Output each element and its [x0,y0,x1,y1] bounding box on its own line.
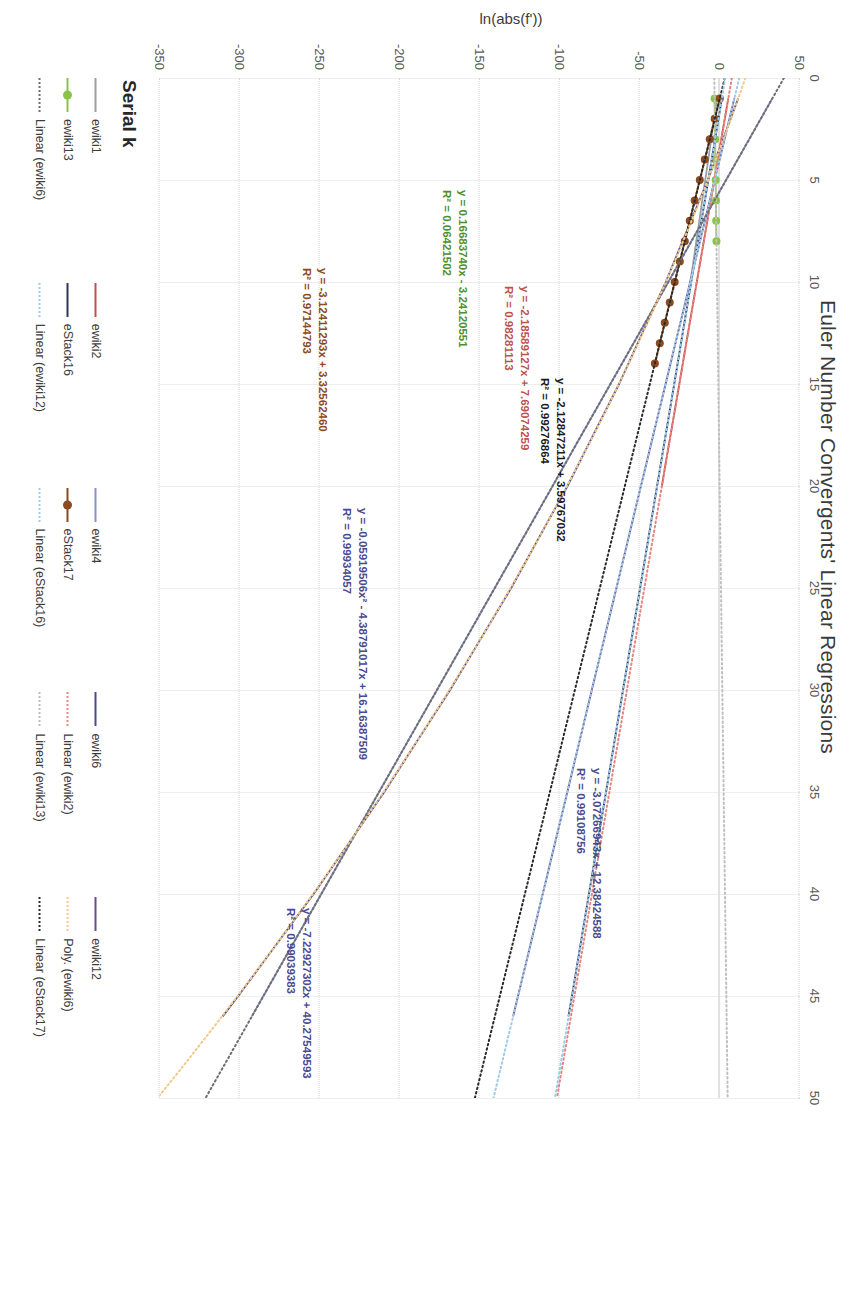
legend-item-linear-estack17-[interactable]: Linear (eStack17) [32,897,46,1098]
annotation-r2: R² = 0.97144793 [298,268,314,432]
legend-item-label: Linear (eStack17) [32,938,46,1037]
annotation-eStack16-fit: y = -2.12847211x + 3.59767032R² = 0.9927… [536,378,567,542]
legend-item-linear-ewiki6-[interactable]: Linear (ewiki6) [32,78,46,279]
x-tick-label: 5 [806,176,821,183]
annotation-r2: R² = 0.98281113 [500,286,516,450]
legend-swatch-icon [61,78,73,112]
x-tick-label: 50 [806,1091,821,1105]
y-tick-label: -150 [472,44,487,70]
annotation-equation: y = -3.07266943x + 12.38424588 [590,768,602,939]
legend-swatch-icon [61,692,73,726]
legend-item-linear-ewiki2-[interactable]: Linear (ewiki2) [60,692,74,893]
legend-item-label: eStack17 [60,529,74,581]
legend-item-ewiki4[interactable]: ewiki4 [88,488,102,689]
annotation-ewiki2-fit: y = -2.18589127x + 7.69074259R² = 0.9828… [500,286,531,450]
legend-item-label: ewiki1 [88,119,102,154]
x-tick-label: 15 [806,377,821,391]
legend-item-label: eStack16 [60,324,74,376]
legend-swatch-icon [33,692,45,726]
y-tick-label: -250 [312,44,327,70]
legend-item-label: ewiki6 [88,733,102,768]
legend-item-label: ewiki13 [60,119,74,161]
legend-swatch-icon [61,283,73,317]
annotation-ewiki4-fit: y = -7.22927302x + 40.27549593R² = 0.990… [282,908,313,1079]
x-tick-label: 0 [806,74,821,81]
legend-marker-icon [63,91,72,100]
y-tick-label: -200 [392,44,407,70]
rotated-chart-stage: Euler Number Convergents' Linear Regress… [0,0,851,1304]
legend-item-label: ewiki4 [88,529,102,564]
annotation-r2: R² = 0.99276864 [536,378,552,542]
legend-item-poly-ewiki6-[interactable]: Poly. (ewiki6) [60,897,74,1098]
legend-swatch-icon [33,283,45,317]
annotation-r2: R² = 0.99039383 [282,908,298,1079]
legend-title: Serial k [117,80,139,1098]
x-tick-label: 40 [806,887,821,901]
y-axis-label: ln(abs(f')) [479,10,542,27]
x-tick-label: 30 [806,683,821,697]
legend-item-label: Linear (ewiki12) [32,324,46,412]
y-tick-label: 50 [792,56,807,70]
legend-swatch-icon [33,897,45,931]
annotation-equation: y = 0.16683740x - 3.24120551 [456,190,468,348]
y-tick-label: -300 [232,44,247,70]
legend-item-label: ewiki12 [88,938,102,980]
trendline-Linear (eStack16) [554,78,724,1098]
legend-swatch-icon [61,897,73,931]
x-tick-label: 45 [806,989,821,1003]
y-tick-label: -50 [632,51,647,70]
legend-item-label: Linear (ewiki2) [60,733,74,814]
annotation-ewiki6-poly: y = -0.05919506x² - 4.38791017x + 16.163… [338,508,369,760]
x-tick-label: 35 [806,785,821,799]
legend-item-ewiki2[interactable]: ewiki2 [88,283,102,484]
x-tick-label: 20 [806,479,821,493]
legend-item-linear-ewiki12-[interactable]: Linear (ewiki12) [32,283,46,484]
legend-item-ewiki12[interactable]: ewiki12 [88,897,102,1098]
annotation-r2: R² = 0.06421502 [438,190,454,348]
trendline-Linear (ewiki13) [714,78,727,1098]
legend-item-linear-estack16-[interactable]: Linear (eStack16) [32,488,46,689]
trendline-Linear (ewiki2) [556,78,731,1098]
x-tick-label: 10 [806,275,821,289]
y-tick-label: 0 [712,63,727,70]
annotation-equation: y = -7.22927302x + 40.27549593 [300,908,312,1079]
gridline-vertical [159,1098,799,1099]
legend-item-ewiki6[interactable]: ewiki6 [88,692,102,893]
annotation-equation: y = -2.18589127x + 7.69074259 [518,286,530,450]
legend-item-label: Linear (ewiki13) [32,733,46,821]
annotation-ewiki12-fit: y = -3.07266943x + 12.38424588R² = 0.991… [572,768,603,939]
legend-swatch-icon [89,897,101,931]
annotation-equation: y = -0.05919506x² - 4.38791017x + 16.163… [356,508,368,760]
legend-swatch-icon [89,488,101,522]
annotation-r2: R² = 0.99934057 [338,508,354,760]
annotation-eStack17-fit: y = -3.12411293x + 3.32562460R² = 0.9714… [298,268,329,432]
plot-area: 500-50-100-150-200-250-300-3500510152025… [159,78,799,1098]
legend-item-estack16[interactable]: eStack16 [60,283,74,484]
y-tick-label: -350 [152,44,167,70]
series-line-ewiki6 [222,98,738,1016]
legend-items: ewiki1ewiki2ewiki4ewiki6ewiki12ewiki13eS… [25,78,109,1098]
legend: Serial k ewiki1ewiki2ewiki4ewiki6ewiki12… [11,78,139,1098]
legend-item-label: Linear (ewiki6) [32,119,46,200]
legend-swatch-icon [89,283,101,317]
annotation-r2: R² = 0.99108756 [572,768,588,939]
chart-page: Euler Number Convergents' Linear Regress… [0,0,851,1304]
legend-swatch-icon [61,488,73,522]
legend-swatch-icon [33,78,45,112]
legend-swatch-icon [33,488,45,522]
series-layer [159,78,799,1098]
legend-item-estack17[interactable]: eStack17 [60,488,74,689]
legend-item-label: Poly. (ewiki6) [60,938,74,1011]
legend-item-label: ewiki2 [88,324,102,359]
annotation-equation: y = -2.12847211x + 3.59767032 [554,378,566,542]
annotation-ewiki13-fit: y = 0.16683740x - 3.24120551R² = 0.06421… [438,190,469,348]
legend-swatch-icon [89,78,101,112]
legend-swatch-icon [89,692,101,726]
annotation-equation: y = -3.12411293x + 3.32562460 [316,268,328,432]
x-tick-label: 25 [806,581,821,595]
legend-item-ewiki1[interactable]: ewiki1 [88,78,102,279]
legend-item-ewiki13[interactable]: ewiki13 [60,78,74,279]
y-tick-label: -100 [552,44,567,70]
legend-item-linear-ewiki13-[interactable]: Linear (ewiki13) [32,692,46,893]
legend-item-label: Linear (eStack16) [32,529,46,628]
